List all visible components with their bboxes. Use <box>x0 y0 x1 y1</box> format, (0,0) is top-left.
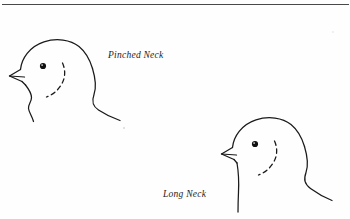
eye-highlight <box>41 64 43 66</box>
eye-highlight <box>253 142 255 144</box>
illustration-page: Pinched Neck Long Neck <box>0 0 350 219</box>
figure-label-pinched-neck: Pinched Neck <box>108 51 164 61</box>
bird-neck-figure-svg <box>0 0 350 219</box>
eye <box>40 63 46 69</box>
eye <box>252 141 258 147</box>
figure-label-long-neck: Long Neck <box>163 190 206 200</box>
paper-background <box>0 0 350 219</box>
scan-speck <box>123 127 125 129</box>
scan-speck <box>332 31 333 32</box>
